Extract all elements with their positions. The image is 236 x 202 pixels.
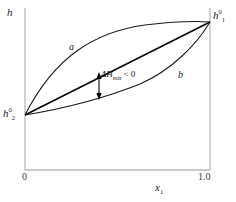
h2-superscript: 0 xyxy=(9,106,12,113)
h1-superscript: 0 xyxy=(219,8,222,15)
x-tick-right: 1.0 xyxy=(198,172,211,182)
x-tick-left: 0 xyxy=(22,172,27,182)
curve-a-label: a xyxy=(69,42,74,52)
h2-subscript: 2 xyxy=(12,114,15,121)
delta-h-mix-annotation: ΔHmix< 0 xyxy=(101,70,135,81)
enthalpy-of-mixing-figure: h h01 h02 a b ΔHmix< 0 0 1.0 x1 xyxy=(0,0,236,202)
x-axis-label: x1 xyxy=(155,182,163,196)
annotation-subscript: mix xyxy=(113,75,122,81)
curve-b-label: b xyxy=(178,70,183,80)
h2-endpoint-label: h02 xyxy=(3,107,15,121)
y-axis-label: h xyxy=(7,7,13,18)
annotation-relation: < 0 xyxy=(123,69,135,79)
h1-endpoint-label: h01 xyxy=(213,9,225,23)
h1-subscript: 1 xyxy=(222,16,225,23)
x-axis-subscript: 1 xyxy=(160,188,163,195)
